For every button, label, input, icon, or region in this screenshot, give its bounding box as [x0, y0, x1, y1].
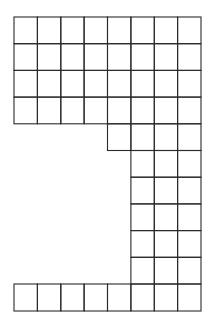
- grid-cell: [178, 177, 201, 204]
- grid-cell: [131, 151, 154, 178]
- grid-cell: [61, 70, 84, 97]
- grid-cell: [154, 204, 177, 231]
- grid-cell: [37, 17, 60, 44]
- grid-cell: [154, 284, 177, 311]
- grid-cell: [154, 124, 177, 151]
- grid-cell: [61, 284, 84, 311]
- grid-cell: [178, 70, 201, 97]
- grid-cell: [14, 17, 37, 44]
- grid-cell: [14, 44, 37, 71]
- grid-cell: [131, 231, 154, 258]
- grid-cell: [61, 44, 84, 71]
- grid-figure: [0, 0, 211, 328]
- grid-cell: [84, 17, 107, 44]
- grid-cell: [131, 177, 154, 204]
- grid-cell: [131, 257, 154, 284]
- grid-cell: [178, 231, 201, 258]
- grid-cell: [37, 70, 60, 97]
- grid-cell: [154, 177, 177, 204]
- grid-cell: [154, 257, 177, 284]
- grid-cell: [108, 17, 131, 44]
- grid-cell: [14, 70, 37, 97]
- grid-cell: [131, 124, 154, 151]
- grid-cell: [154, 151, 177, 178]
- grid-cell: [131, 17, 154, 44]
- grid-cell: [178, 97, 201, 124]
- grid-cell: [178, 151, 201, 178]
- grid-cell: [178, 204, 201, 231]
- grid-cell: [108, 70, 131, 97]
- grid-cell: [154, 17, 177, 44]
- grid-cell: [154, 231, 177, 258]
- grid-cell: [131, 70, 154, 97]
- grid-cell: [131, 204, 154, 231]
- grid-cell: [131, 284, 154, 311]
- grid-cell: [178, 124, 201, 151]
- grid-cell: [178, 44, 201, 71]
- grid-cell: [178, 17, 201, 44]
- grid-cell: [61, 17, 84, 44]
- grid-cell: [84, 97, 107, 124]
- grid-cell: [108, 97, 131, 124]
- grid-cell: [154, 97, 177, 124]
- grid-cell: [131, 44, 154, 71]
- grid-cell: [131, 97, 154, 124]
- grid-cell: [178, 257, 201, 284]
- grid-cell: [37, 44, 60, 71]
- grid-cell: [37, 97, 60, 124]
- grid-cell: [178, 284, 201, 311]
- grid-cell: [108, 124, 131, 151]
- grid-cell: [154, 70, 177, 97]
- grid-cell: [14, 284, 37, 311]
- grid-cell: [108, 284, 131, 311]
- grid-cell: [37, 284, 60, 311]
- grid-cell: [84, 284, 107, 311]
- grid-cell: [14, 97, 37, 124]
- grid-cell: [84, 70, 107, 97]
- grid-cell: [154, 44, 177, 71]
- grid-cell: [108, 44, 131, 71]
- grid-cell: [61, 97, 84, 124]
- grid-cell: [84, 44, 107, 71]
